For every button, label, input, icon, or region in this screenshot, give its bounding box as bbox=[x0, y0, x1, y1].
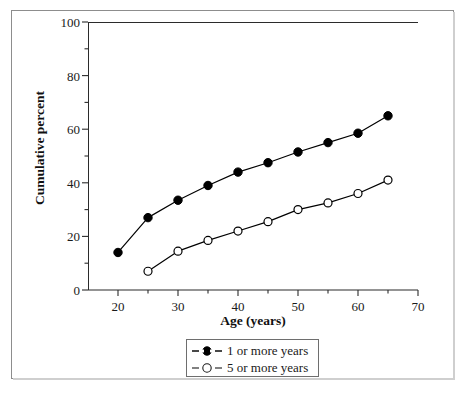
legend-entry-1: 1 or more years bbox=[191, 342, 313, 359]
chart-figure: Cumulative percent 020406080100 20304050… bbox=[0, 0, 464, 396]
data-point-open-circle bbox=[234, 227, 242, 235]
data-point-filled-circle bbox=[294, 148, 302, 156]
y-tick-label: 80 bbox=[42, 69, 80, 82]
x-tick-label: 30 bbox=[172, 300, 185, 313]
data-series-layer bbox=[88, 22, 418, 290]
data-point-filled-circle bbox=[324, 138, 332, 146]
data-point-open-circle bbox=[294, 206, 302, 214]
x-tick-label: 70 bbox=[412, 300, 425, 313]
x-tick-label: 40 bbox=[232, 300, 245, 313]
data-point-open-circle bbox=[354, 190, 362, 198]
data-point-filled-circle bbox=[384, 112, 392, 120]
legend-marker-open-circle-icon bbox=[191, 361, 223, 375]
legend-label-1: 1 or more years bbox=[223, 343, 308, 359]
x-axis-title: Age (years) bbox=[88, 313, 418, 329]
y-tick-label: 20 bbox=[42, 230, 80, 243]
legend-entry-2: 5 or more years bbox=[191, 359, 313, 376]
legend-marker-filled-circle-icon bbox=[191, 344, 223, 358]
data-point-filled-circle bbox=[264, 159, 272, 167]
data-point-filled-circle bbox=[354, 129, 362, 137]
data-point-open-circle bbox=[264, 218, 272, 226]
data-point-open-circle bbox=[324, 199, 332, 207]
x-tick-label: 20 bbox=[112, 300, 125, 313]
data-point-filled-circle bbox=[234, 168, 242, 176]
chart-legend: 1 or more years 5 or more years bbox=[186, 339, 319, 377]
data-point-filled-circle bbox=[144, 213, 152, 221]
y-axis-title: Cumulative percent bbox=[32, 68, 48, 228]
y-tick-label: 100 bbox=[42, 16, 80, 29]
x-tick-label: 50 bbox=[292, 300, 305, 313]
data-point-open-circle bbox=[174, 247, 182, 255]
legend-label-2: 5 or more years bbox=[223, 360, 308, 376]
plot-area bbox=[88, 22, 418, 290]
y-tick-label: 0 bbox=[42, 284, 80, 297]
x-tick-label: 60 bbox=[352, 300, 365, 313]
data-point-filled-circle bbox=[174, 196, 182, 204]
data-point-filled-circle bbox=[204, 181, 212, 189]
data-point-open-circle bbox=[204, 236, 212, 244]
y-tick-label: 60 bbox=[42, 123, 80, 136]
data-point-filled-circle bbox=[114, 248, 122, 256]
data-point-open-circle bbox=[144, 267, 152, 275]
y-tick-label: 40 bbox=[42, 176, 80, 189]
data-point-open-circle bbox=[384, 176, 392, 184]
